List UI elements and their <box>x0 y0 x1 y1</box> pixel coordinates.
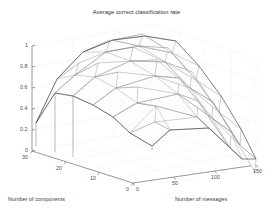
components-axis-line <box>32 151 133 183</box>
messages-tick-150: 150 <box>253 169 262 174</box>
components-tick-10: 10 <box>90 176 96 181</box>
messages-axis-line <box>133 165 256 183</box>
surface-patches <box>36 34 256 172</box>
components-tick-0: 0 <box>126 187 129 192</box>
surface-mesh <box>36 34 256 172</box>
z-axis-ticks <box>32 45 35 151</box>
z-tick-1: 1 <box>25 43 28 48</box>
components-tick-20: 20 <box>56 166 62 171</box>
messages-tick-50: 50 <box>172 181 178 186</box>
messages-tick-0: 0 <box>136 187 139 192</box>
z-tick-0.2: 0.2 <box>20 127 28 132</box>
messages-axis-ticks <box>133 165 258 186</box>
components-axis-label: Number of components <box>8 197 65 202</box>
messages-axis-label: Number of messages <box>175 197 227 202</box>
messages-tick-100: 100 <box>211 175 220 180</box>
z-tick-0.6: 0.6 <box>20 85 28 90</box>
z-tick-0: 0 <box>25 148 28 153</box>
figure-canvas: Average correct classification rate <box>0 0 273 220</box>
components-tick-30: 30 <box>22 155 28 160</box>
components-axis-ticks <box>30 151 133 186</box>
z-tick-0.8: 0.8 <box>20 64 28 69</box>
z-tick-0.4: 0.4 <box>20 106 28 111</box>
